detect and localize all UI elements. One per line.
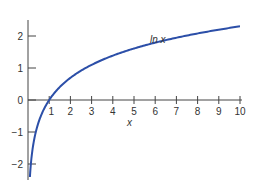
y-tick-label: −2 <box>12 159 24 170</box>
x-tick-label: 8 <box>195 106 201 117</box>
y-tick-label: 2 <box>17 31 23 42</box>
x-tick-label: 5 <box>131 106 137 117</box>
axes <box>28 20 242 180</box>
x-tick-label: 6 <box>152 106 158 117</box>
x-axis-label: x <box>126 117 133 128</box>
y-tick-label: 1 <box>17 63 23 74</box>
x-tick-label: 1 <box>48 106 54 117</box>
x-tick-label: 3 <box>89 106 95 117</box>
x-tick-label: 9 <box>216 106 222 117</box>
curve-label: ln x <box>150 34 167 45</box>
x-ticks: 12345678910 <box>48 96 246 117</box>
x-tick-label: 4 <box>110 106 116 117</box>
ln-chart: −2−1012 12345678910 ln x x <box>0 0 257 185</box>
x-tick-label: 7 <box>174 106 180 117</box>
x-tick-label: 2 <box>68 106 74 117</box>
ln-curve <box>30 26 240 177</box>
y-tick-label: 0 <box>17 95 23 106</box>
x-tick-label: 10 <box>234 106 246 117</box>
y-tick-label: −1 <box>12 127 24 138</box>
